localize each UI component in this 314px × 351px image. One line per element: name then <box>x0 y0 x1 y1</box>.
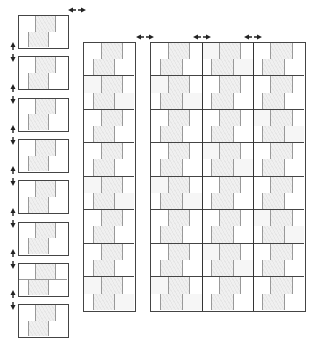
vertical-expand-arrow-icon <box>10 290 16 310</box>
brick <box>253 244 271 260</box>
brick <box>220 244 241 260</box>
brick <box>29 280 49 296</box>
brick <box>102 210 123 226</box>
brick <box>271 76 292 92</box>
brick <box>84 210 102 226</box>
brick <box>151 76 169 92</box>
brick <box>271 143 292 159</box>
brick-course-top <box>151 177 202 194</box>
brick <box>241 277 253 294</box>
brick <box>220 76 241 92</box>
brick <box>56 223 67 239</box>
brick-block <box>202 177 253 210</box>
brick <box>151 93 161 109</box>
brick-course-bottom <box>19 280 67 296</box>
brick-block <box>151 43 202 76</box>
brick <box>253 193 263 209</box>
brick <box>220 210 241 226</box>
brick <box>169 110 190 126</box>
brick <box>161 260 182 276</box>
brick <box>169 210 190 226</box>
brick <box>263 226 284 242</box>
brick-course-top <box>151 110 202 127</box>
brick <box>202 226 212 242</box>
brick <box>202 159 212 175</box>
brick <box>234 193 253 209</box>
brick <box>19 57 36 73</box>
brick-block <box>84 277 134 310</box>
brick <box>19 181 36 197</box>
brick <box>202 76 220 92</box>
brick-course-bottom <box>253 159 304 175</box>
brick-course-top <box>253 244 304 261</box>
brick <box>84 93 94 109</box>
brick <box>190 177 202 193</box>
brick-course-bottom <box>19 197 67 213</box>
brick <box>94 226 115 242</box>
brick-block <box>202 110 253 143</box>
brick-block <box>253 76 304 109</box>
brick-course-bottom <box>253 59 304 75</box>
brick <box>202 110 220 126</box>
brick <box>123 43 135 59</box>
brick-course-bottom <box>202 93 253 109</box>
brick-course-bottom <box>151 93 202 109</box>
brick <box>241 43 253 59</box>
brick <box>220 177 241 193</box>
brick <box>56 264 67 280</box>
vertical-expand-arrow-icon <box>10 84 16 104</box>
expand-right-col2-col3-arrow-icon <box>244 34 262 40</box>
brick-block <box>19 57 67 88</box>
brick-course-bottom <box>151 59 202 75</box>
brick <box>151 177 169 193</box>
brick-course-bottom <box>151 159 202 175</box>
brick <box>161 193 182 209</box>
brick-course-bottom <box>202 193 253 209</box>
brick <box>115 226 134 242</box>
brick <box>115 126 134 142</box>
brick-course-bottom <box>19 114 67 130</box>
expand-left-to-middle-arrow-icon <box>68 7 86 13</box>
brick <box>293 43 305 59</box>
brick-course-top <box>151 143 202 160</box>
brick <box>202 59 212 75</box>
brick <box>202 43 220 59</box>
brick <box>212 193 233 209</box>
brick <box>19 140 36 156</box>
brick <box>151 277 169 294</box>
brick <box>293 277 305 294</box>
brick <box>94 59 115 75</box>
brick-course-bottom <box>202 126 253 142</box>
middle-panel <box>83 42 136 312</box>
brick <box>94 126 115 142</box>
brick <box>253 59 263 75</box>
brick <box>151 110 169 126</box>
brick <box>84 76 102 92</box>
brick-block <box>19 16 67 47</box>
brick <box>263 260 284 276</box>
brick <box>102 110 123 126</box>
brick-course-top <box>202 177 253 194</box>
brick-course-bottom <box>151 226 202 242</box>
brick <box>183 260 202 276</box>
brick <box>271 244 292 260</box>
brick <box>253 260 263 276</box>
brick <box>49 197 67 213</box>
brick <box>263 93 284 109</box>
brick <box>271 177 292 193</box>
brick-course-top <box>151 277 202 295</box>
brick-course-top <box>84 177 134 194</box>
brick <box>19 321 29 337</box>
brick <box>84 43 102 59</box>
brick <box>285 294 304 311</box>
brick <box>49 238 67 254</box>
expand-middle-to-right-arrow-icon <box>136 34 154 40</box>
brick-block <box>253 277 304 310</box>
brick <box>36 57 56 73</box>
brick <box>190 110 202 126</box>
brick-course-top <box>253 143 304 160</box>
brick <box>190 76 202 92</box>
brick <box>123 76 135 92</box>
brick <box>241 110 253 126</box>
column-divider <box>253 43 254 311</box>
